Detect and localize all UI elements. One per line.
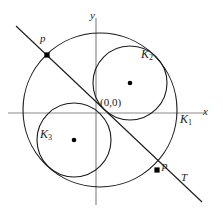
- circle-label-K2-subscript: 2: [149, 53, 153, 62]
- tangent-line-label: T: [181, 172, 187, 183]
- center-dot-K2: [128, 81, 133, 86]
- circle-label-K3-letter: K: [40, 127, 48, 141]
- circle-label-K2: K2: [141, 48, 153, 62]
- y-axis-label: y: [90, 10, 95, 21]
- x-axis-label: x: [203, 106, 208, 117]
- circle-label-K1: K1: [180, 113, 192, 127]
- geometry-figure: y x (0,0) K1 K2 K3 T p p: [0, 0, 223, 212]
- origin-label: (0,0): [100, 97, 121, 108]
- point-marker-p-lower: [154, 167, 159, 172]
- circle-label-K1-subscript: 1: [188, 118, 192, 127]
- point-marker-p-upper: [44, 52, 49, 57]
- center-dot-K3: [72, 138, 77, 143]
- circle-label-K3-subscript: 3: [48, 133, 52, 142]
- circle-label-K2-letter: K: [141, 47, 149, 61]
- point-label-p-upper: p: [40, 33, 46, 44]
- circle-label-K3: K3: [40, 128, 52, 142]
- point-label-p-lower: p: [162, 160, 168, 171]
- circle-label-K1-letter: K: [180, 112, 188, 126]
